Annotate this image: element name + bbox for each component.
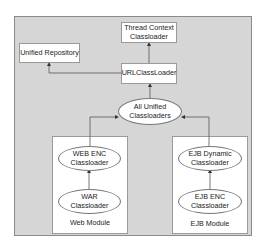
ejb-dynamic-label: EJB Dynamic Classloader [188, 150, 231, 167]
ejb-module-label: EJB Module [172, 219, 248, 228]
all-unified-classloaders-node: All Unified Classloaders [118, 98, 182, 125]
war-label: WAR Classloader [71, 193, 109, 210]
all-unified-label: All Unified Classloaders [129, 103, 171, 120]
thread-context-classloader-node: Thread Context Classloader [121, 22, 177, 43]
web-enc-label: WEB ENC Classloader [71, 150, 109, 167]
ejb-enc-label: EJB ENC Classloader [191, 193, 229, 210]
web-enc-classloader-node: WEB ENC Classloader [58, 146, 121, 171]
unified-repository-node: Unified Repository [19, 43, 80, 63]
unified-repository-label: Unified Repository [20, 49, 79, 58]
ejb-dynamic-classloader-node: EJB Dynamic Classloader [178, 146, 242, 171]
url-classloader-node: URLClassLoader [121, 63, 177, 84]
war-classloader-node: WAR Classloader [58, 189, 121, 214]
ejb-enc-classloader-node: EJB ENC Classloader [178, 189, 242, 214]
web-module-label: Web Module [52, 218, 128, 227]
thread-context-label: Thread Context Classloader [124, 24, 174, 41]
url-classloader-label: URLClassLoader [122, 69, 177, 78]
